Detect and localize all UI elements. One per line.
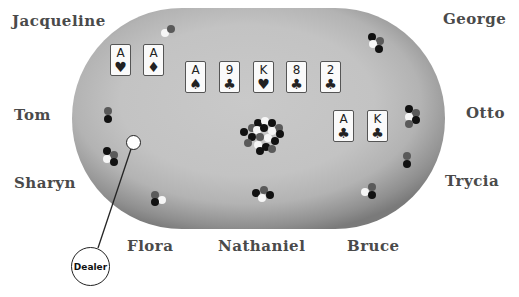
poker-table-scene: Jacqueline George Tom Otto Sharyn Trycia… [0, 0, 519, 297]
dealer-button[interactable] [126, 135, 141, 150]
dealer-label-text: Dealer [74, 262, 107, 272]
dealer-label: Dealer [71, 247, 110, 286]
